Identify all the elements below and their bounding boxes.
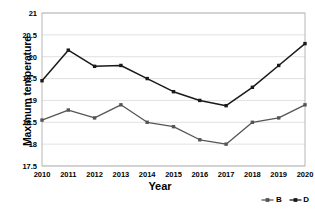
legend-label: D [303, 196, 309, 204]
x-tick-label: 2011 [60, 170, 76, 179]
data-point-marker [93, 116, 96, 119]
x-axis-ticks: 2010201120122013201420152016201720182019… [34, 170, 314, 179]
data-point-marker [251, 121, 254, 124]
data-series [40, 42, 306, 146]
legend-label: B [276, 196, 282, 204]
data-point-marker [146, 77, 149, 80]
legend-item-d[interactable]: D [289, 196, 309, 204]
data-point-marker [67, 48, 70, 51]
y-tick-label: 19 [29, 96, 37, 105]
y-tick-label: 18.5 [22, 118, 37, 127]
data-point-marker [119, 64, 122, 67]
data-point-marker [198, 138, 201, 141]
data-point-marker [224, 142, 227, 145]
data-point-marker [67, 108, 70, 111]
legend-marker-icon [261, 196, 274, 204]
data-point-marker [277, 64, 280, 67]
temperature-line-chart: Maximum temperature 17.51818.51919.52020… [0, 0, 315, 219]
x-tick-label: 2012 [86, 170, 103, 179]
data-point-marker [224, 104, 227, 107]
x-tick-label: 2016 [191, 170, 208, 179]
x-tick-label: 2020 [297, 170, 314, 179]
data-point-marker [40, 79, 43, 82]
legend-item-b[interactable]: B [261, 196, 281, 204]
x-tick-label: 2010 [34, 170, 51, 179]
data-point-marker [40, 118, 43, 121]
series-line-d [42, 44, 305, 106]
series-line-b [42, 105, 305, 144]
y-axis-ticks: 17.51818.51919.52020.521 [22, 9, 37, 171]
x-tick-label: 2018 [244, 170, 261, 179]
x-axis-title: Year [30, 180, 290, 192]
x-tick-label: 2017 [218, 170, 235, 179]
chart-legend: BD [261, 196, 309, 204]
x-tick-label: 2013 [113, 170, 130, 179]
gridlines [42, 13, 305, 166]
data-point-marker [93, 65, 96, 68]
plot-border [42, 13, 305, 166]
y-tick-label: 20.5 [22, 31, 37, 40]
y-tick-label: 19.5 [22, 74, 37, 83]
y-tick-label: 21 [29, 9, 37, 18]
y-tick-label: 18 [29, 140, 37, 149]
data-point-marker [119, 103, 122, 106]
data-point-marker [277, 116, 280, 119]
x-tick-label: 2015 [165, 170, 182, 179]
y-tick-label: 20 [29, 53, 37, 62]
data-point-marker [172, 90, 175, 93]
data-point-marker [303, 103, 306, 106]
x-tick-label: 2014 [139, 170, 157, 179]
data-point-marker [251, 86, 254, 89]
legend-marker-icon [289, 196, 302, 204]
data-point-marker [146, 121, 149, 124]
x-tick-label: 2019 [270, 170, 287, 179]
data-point-marker [303, 42, 306, 45]
data-point-marker [172, 125, 175, 128]
data-point-marker [198, 99, 201, 102]
